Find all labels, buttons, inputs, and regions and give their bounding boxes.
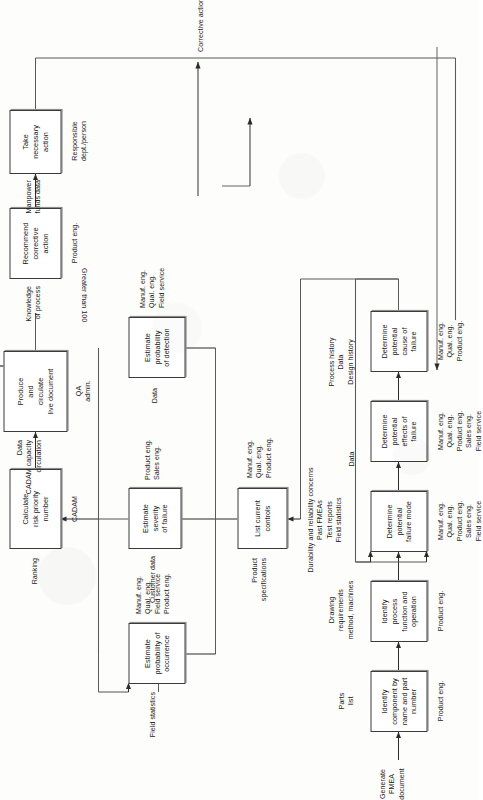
resource-label-b2: Product eng. — [436, 580, 445, 642]
input-label-customer-data: Customer data — [148, 556, 157, 622]
process-box-produce-live-document[interactable]: Produce and circulate live document — [3, 351, 67, 432]
input-label-knowledge-of-process: Knowledge of process — [24, 286, 43, 360]
process-box-estimate-severity[interactable]: Estimate severity of failure — [128, 488, 181, 549]
process-box-determine-cause[interactable]: Determine potential cause of failure — [370, 311, 427, 372]
loop-label-corrective-action-data: Corrective action data — [196, 0, 205, 52]
branch-label-greater-than-100: Greater than 100 — [78, 268, 87, 348]
process-box-identify-process[interactable]: Identify process function and operation — [370, 581, 427, 642]
process-box-estimate-occurrence[interactable]: Estimate probability of occurrence — [128, 623, 185, 684]
resource-label-b1: Product eng. — [436, 670, 445, 732]
resource-label-b5: Manuf. eng. Qual. eng. Product eng. — [436, 306, 464, 376]
process-box-identify-component[interactable]: Identify component by name and part numb… — [370, 671, 427, 732]
input-label-data-detection: Data — [150, 388, 159, 438]
resource-label-b9: Manuf. eng. Qual. eng. Field service — [138, 238, 166, 308]
resource-label-b10: CADAM — [70, 473, 79, 545]
start-label: Generate FMEA document — [378, 758, 406, 800]
input-label-process-history: Process history Data Design history — [327, 322, 355, 402]
input-label-cadam-capacity: Data CADAM capacity circulation — [15, 440, 43, 532]
resource-label-b4: Manuf. eng. Qual. eng. Product eng. Sale… — [436, 396, 483, 466]
input-label-parts-list: Parts list — [337, 674, 356, 728]
input-label-field-statistics: Field statistics — [148, 692, 157, 766]
resource-label-b11: QA admin. — [74, 356, 93, 426]
resource-label-b3: Manuf. eng. Qual. eng. Product eng. Sale… — [436, 486, 483, 556]
process-box-list-controls[interactable]: List current controls — [237, 488, 287, 549]
input-label-durability-concerns: Durability and reliability concerns Past… — [306, 410, 344, 630]
input-label-data-effects: Data — [347, 434, 356, 484]
process-box-estimate-detection[interactable]: Estimate probability of detection — [128, 317, 185, 378]
input-label-product-specifications: Product specifications — [250, 558, 269, 650]
process-box-take-necessary-action[interactable]: Take necessary action — [9, 110, 61, 174]
input-label-ranking: Ranking — [30, 558, 39, 614]
process-box-determine-effects[interactable]: Determine potential effects of failure — [370, 401, 427, 462]
input-label-manpower-funds: Manpower funds data — [24, 180, 43, 252]
resource-label-b6: Manuf. eng. Qual. eng. Product eng. — [245, 398, 273, 478]
resource-label-b13: Responsible dept./person — [70, 104, 89, 178]
process-box-determine-failure-mode[interactable]: Determine potential failure mode — [370, 491, 427, 552]
